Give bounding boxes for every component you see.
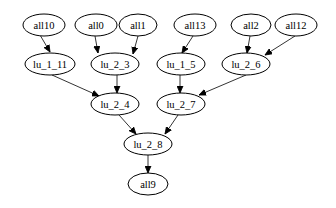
- node-all2[interactable]: all2: [231, 14, 271, 36]
- node-lu_2_8[interactable]: lu_2_8: [124, 133, 172, 155]
- node-label: lu_1_5: [166, 59, 195, 70]
- edge-all10-lu_1_11: [40, 35, 50, 52]
- node-label: lu_2_7: [166, 99, 195, 110]
- edge-all0-lu_2_3: [95, 36, 98, 53]
- edge-lu_2_4-lu_2_8: [119, 115, 136, 134]
- node-all1[interactable]: all1: [119, 14, 157, 36]
- node-label: all10: [34, 20, 55, 31]
- node-lu_2_3[interactable]: lu_2_3: [91, 53, 139, 75]
- node-label: all0: [88, 20, 104, 31]
- node-label: lu_2_4: [100, 99, 130, 110]
- edge-lu_2_7-lu_2_8: [165, 115, 178, 134]
- node-all12[interactable]: all12: [275, 14, 317, 36]
- node-label: all2: [243, 20, 259, 31]
- edge-all2-lu_2_6: [247, 36, 250, 53]
- node-lu_1_5[interactable]: lu_1_5: [157, 53, 205, 75]
- edge-lu_1_11-lu_2_4: [52, 75, 99, 96]
- node-label: lu_1_11: [33, 59, 67, 70]
- node-all10[interactable]: all10: [23, 14, 65, 36]
- node-label: lu_2_6: [231, 59, 260, 70]
- node-all9[interactable]: all9: [128, 173, 168, 195]
- node-all0[interactable]: all0: [75, 14, 117, 36]
- node-all13[interactable]: all13: [174, 14, 216, 36]
- node-label: lu_2_3: [100, 59, 129, 70]
- node-label: all13: [185, 20, 206, 31]
- node-label: all1: [130, 20, 146, 31]
- edge-all12-lu_2_6: [265, 36, 295, 55]
- node-lu_2_6[interactable]: lu_2_6: [222, 53, 270, 75]
- edge-all1-lu_2_3: [133, 36, 138, 54]
- node-label: all12: [286, 20, 307, 31]
- node-label: lu_2_8: [133, 139, 162, 150]
- node-label: all9: [140, 179, 156, 190]
- node-lu_1_11[interactable]: lu_1_11: [25, 53, 75, 75]
- node-lu_2_7[interactable]: lu_2_7: [157, 93, 205, 115]
- edge-lu_2_6-lu_2_7: [199, 75, 246, 95]
- node-lu_2_4[interactable]: lu_2_4: [91, 93, 139, 115]
- edge-all13-lu_1_5: [182, 36, 193, 53]
- graph-canvas: all10 all0 all1 all13 all2 all12 lu_1_11…: [0, 0, 336, 208]
